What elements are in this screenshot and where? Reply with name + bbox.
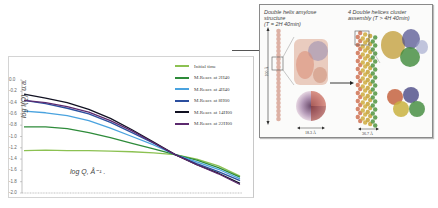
y-tick-label: -0.6 (9, 111, 17, 116)
legend-label: M.Reacr. at 2H40 (194, 75, 230, 80)
legend-label: M.Reacr. at 8H00 (194, 98, 230, 103)
molecular-illustrations (260, 5, 432, 137)
length-label: 100 Å (264, 67, 269, 77)
y-tick-label: -0.2 (9, 88, 17, 93)
connector-line (232, 50, 260, 51)
legend-entry: M.Reacr. at 2H40 (175, 73, 230, 83)
legend-swatch (175, 123, 189, 125)
left-scale-label: 18.3 Å (305, 130, 316, 135)
legend-label: Initial time (194, 64, 216, 69)
legend-swatch (175, 111, 189, 113)
y-tick-label: -2.0 (9, 190, 17, 195)
legend-swatch (175, 65, 189, 67)
legend-label: M.Reacr. at 4H40 (194, 87, 230, 92)
legend-entry: M.Reacr. at 4H40 (175, 84, 230, 94)
legend-entry: Initial time (175, 61, 216, 71)
legend-swatch (175, 100, 189, 102)
x-axis-label: log Q, Å⁻¹ . (70, 168, 106, 176)
legend-swatch (175, 77, 189, 79)
legend-label: M.Reacr. at 14H00 (194, 110, 232, 115)
y-tick-label: -1.8 (9, 179, 17, 184)
structure-panel: Double helix amylose structure (T = 2H 4… (259, 4, 433, 138)
series-line (24, 150, 240, 176)
y-tick-label: -0.8 (9, 122, 17, 127)
legend-entry: M.Reacr. at 22H00 (175, 119, 232, 129)
y-tick-label: -0.4 (9, 100, 17, 105)
legend-label: M.Reacr. at 22H00 (194, 121, 232, 126)
y-tick-label: -1.4 (9, 156, 17, 161)
legend-entry: M.Reacr. at 14H00 (175, 107, 232, 117)
y-tick-label: -1.2 (9, 145, 17, 150)
legend-entry: M.Reacr. at 8H00 (175, 96, 230, 106)
y-axis-label: log I(Q), u.a. (20, 79, 27, 118)
legend-swatch (175, 88, 189, 90)
y-tick-label: -1.6 (9, 167, 17, 172)
y-tick-label: -1.0 (9, 134, 17, 139)
right-scale-label: 36.7 Å (362, 131, 373, 136)
y-tick-label: 0.0 (9, 77, 15, 82)
